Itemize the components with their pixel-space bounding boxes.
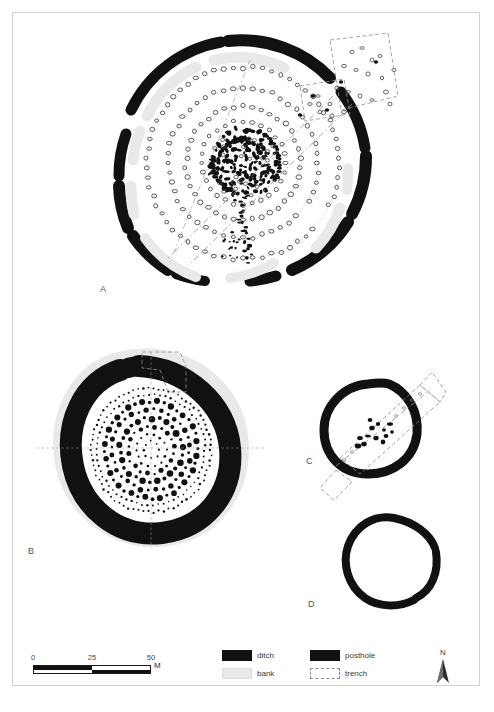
legend-label-ditch: ditch [257,651,305,660]
panel-label-d: D [308,599,315,609]
legend-label-bank: bank [257,669,305,678]
legend-swatch-ditch [222,650,252,661]
scale-seg-2 [63,666,92,673]
scale-tick-0: 0 [31,653,35,662]
figure-root: A B [0,0,494,712]
scale-bar-graphic [33,665,151,674]
legend-swatch-bank [222,668,252,679]
scale-seg-4 [121,666,150,673]
legend-swatch-trench [310,668,340,679]
scale-bar-unit: M [154,661,161,670]
scale-bar: 0 25 50 M [33,653,151,674]
scale-seg-3 [92,666,121,673]
north-letter: N [432,648,454,658]
ditch-d [346,517,437,605]
legend-label-posthole: posthole [345,651,375,660]
scale-bar-ticks: 0 25 50 [33,653,151,665]
scale-seg-1 [34,666,63,673]
legend: ditch posthole bank trench [222,648,375,681]
legend-swatch-posthole [310,650,340,661]
monument-plan-d [0,0,494,712]
north-arrow: N [432,648,454,688]
north-arrow-icon [434,658,452,684]
scale-tick-25: 25 [88,653,96,662]
legend-label-trench: trench [345,669,375,678]
